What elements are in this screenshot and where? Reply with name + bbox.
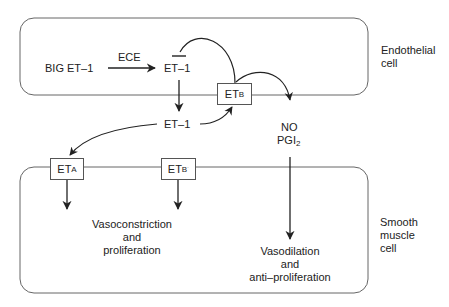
endothelial-cell-boundary: [20, 18, 368, 95]
etb-smooth-muscle-receptor: ETB˙: [161, 158, 196, 180]
et1-intracellular-label: ET–1: [164, 62, 190, 75]
et1-to-eta-arrow: [70, 124, 157, 155]
vasodilation-effect-label: Vasodilation and anti–proliferation: [240, 245, 340, 284]
no-label: NO: [281, 121, 298, 134]
smooth-muscle-cell-label: Smooth muscle cell: [380, 216, 418, 255]
etb-feedback-inhibition-arc: [180, 38, 235, 83]
vasoconstriction-effect-label: Vasoconstriction and proliferation: [82, 218, 182, 257]
et1-to-etb-endothelial-arrow: [200, 107, 232, 124]
endothelial-cell-label: Endothelial cell: [381, 44, 435, 70]
pgi2-label: PGI2: [277, 134, 300, 150]
etb-endothelial-receptor: ETB: [217, 83, 252, 105]
ece-enzyme-label: ECE: [118, 51, 141, 64]
eta-receptor: ETA: [50, 158, 84, 180]
et1-extracellular-label: ET–1: [164, 118, 190, 131]
big-et1-label: BIG ET–1: [45, 62, 93, 75]
